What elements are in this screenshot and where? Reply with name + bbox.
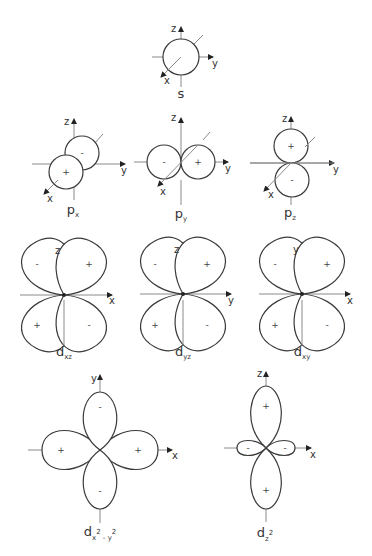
svg-text:z: z <box>257 368 262 379</box>
svg-text:+: + <box>134 445 142 455</box>
svg-text:z: z <box>171 112 176 123</box>
svg-text:-: - <box>273 259 276 269</box>
axis-label-z: z <box>171 23 176 34</box>
orbital-label-s: s <box>178 86 185 101</box>
svg-text:-: - <box>98 402 101 412</box>
orbital-dxy: - + + - y x dxy <box>252 229 353 361</box>
svg-text:+: + <box>287 141 295 151</box>
svg-text:+: + <box>33 320 41 330</box>
orbital-dyz: - + + - z y dyz <box>133 229 234 361</box>
svg-text:-: - <box>153 259 156 269</box>
svg-text:+: + <box>271 320 279 330</box>
axis-label-y: y <box>212 58 218 69</box>
orbital-px: - + z y x px <box>32 116 127 219</box>
svg-text:y: y <box>228 295 234 306</box>
svg-text:y: y <box>333 164 339 175</box>
svg-text:x: x <box>47 193 53 204</box>
svg-text:+: + <box>203 259 211 269</box>
orbital-s: z y x s <box>152 23 218 101</box>
svg-text:x: x <box>172 450 178 461</box>
svg-text:-: - <box>205 320 208 330</box>
svg-text:-: - <box>162 157 165 167</box>
orbital-label-px: px <box>67 202 79 219</box>
svg-text:y: y <box>121 165 127 176</box>
svg-text:x: x <box>160 186 166 197</box>
svg-text:-: - <box>325 320 328 330</box>
svg-text:y: y <box>225 163 231 174</box>
orbital-label-py: py <box>175 206 187 223</box>
svg-text:-: - <box>283 443 286 453</box>
orbital-label-dx2-y2: dx2 - y2 <box>84 524 117 542</box>
svg-text:-: - <box>98 486 101 496</box>
orbital-dz2: + - - + z x dz2 <box>224 368 316 543</box>
svg-text:+: + <box>151 320 159 330</box>
orbital-label-pz: pz <box>284 205 296 222</box>
svg-text:x: x <box>268 189 274 200</box>
svg-text:-: - <box>80 148 83 158</box>
svg-text:x: x <box>109 295 115 306</box>
svg-text:-: - <box>35 259 38 269</box>
svg-text:z: z <box>174 244 179 255</box>
orbital-pz: + - z y x pz <box>250 113 339 222</box>
svg-text:-: - <box>290 175 293 185</box>
orbital-diagram: z y x s - + z y x px - + z y x py <box>0 0 372 556</box>
svg-text:+: + <box>262 401 270 411</box>
svg-text:+: + <box>262 485 270 495</box>
svg-text:+: + <box>194 157 202 167</box>
orbital-dx2-y2: - + + - y x dx2 - y2 <box>28 373 178 542</box>
svg-text:y: y <box>293 244 299 255</box>
orbital-dxz: - + + - z x dxz <box>14 230 115 361</box>
svg-text:z: z <box>55 245 60 256</box>
svg-text:y: y <box>91 373 97 384</box>
svg-text:+: + <box>57 445 65 455</box>
orbital-label-dz2: dz2 <box>257 525 273 543</box>
svg-text:x: x <box>310 449 316 460</box>
svg-text:z: z <box>64 116 69 127</box>
svg-text:+: + <box>323 259 331 269</box>
axis-label-x: x <box>164 75 170 86</box>
svg-text:+: + <box>62 167 70 177</box>
svg-text:-: - <box>246 443 249 453</box>
svg-text:x: x <box>347 295 353 306</box>
svg-text:-: - <box>87 320 90 330</box>
orbital-py: - + z y x py <box>134 112 231 223</box>
svg-text:z: z <box>282 113 287 124</box>
svg-text:+: + <box>85 259 93 269</box>
